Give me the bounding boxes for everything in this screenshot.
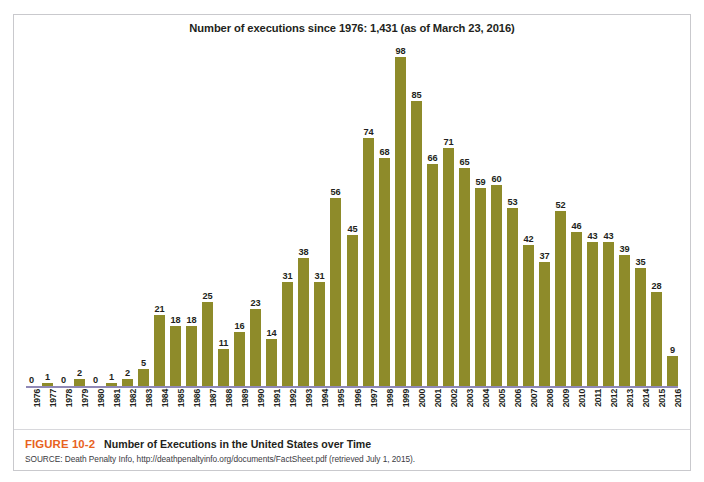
x-tick-label: 2002 [443, 389, 454, 425]
x-tick-label: 1998 [379, 389, 390, 425]
bar-value-label: 0 [61, 375, 66, 385]
bar-value-label: 28 [651, 281, 661, 291]
bar-rect [667, 356, 678, 386]
x-tick-label: 2008 [539, 389, 550, 425]
x-tick-label: 2012 [603, 389, 614, 425]
bar-column: 38 [298, 247, 309, 387]
bar-rect [427, 164, 438, 386]
bar-rect [363, 138, 374, 386]
bar-rect [314, 282, 325, 386]
x-tick-label: 2003 [459, 389, 470, 425]
bar-rect [234, 332, 245, 386]
bar-value-label: 31 [314, 271, 324, 281]
bar-value-label: 66 [427, 153, 437, 163]
bar-rect [459, 168, 470, 386]
bar-column: 65 [459, 157, 470, 387]
bar-column: 18 [186, 315, 197, 387]
bar-value-label: 43 [603, 231, 613, 241]
chart-title: Number of executions since 1976: 1,431 (… [14, 22, 690, 34]
bar-rect [170, 326, 181, 386]
bar-rect [74, 379, 85, 386]
bar-column: 21 [154, 304, 165, 387]
bar-rect [555, 211, 566, 386]
bar-column: 53 [507, 197, 518, 387]
x-tick-label: 1978 [58, 389, 69, 425]
x-tick-label: 2016 [667, 389, 678, 425]
bar-column: 0 [26, 375, 37, 387]
x-tick-label: 2013 [619, 389, 630, 425]
bar-value-label: 14 [266, 328, 276, 338]
x-tick-label: 2006 [507, 389, 518, 425]
bar-value-label: 9 [670, 345, 675, 355]
x-tick-label: 1977 [42, 389, 53, 425]
bar-value-label: 37 [539, 251, 549, 261]
bar-value-label: 46 [571, 221, 581, 231]
x-tick-label: 1989 [234, 389, 245, 425]
bar-column: 43 [587, 231, 598, 387]
x-tick-label: 2004 [475, 389, 486, 425]
x-tick-label: 1986 [186, 389, 197, 425]
chart-region: Number of executions since 1976: 1,431 (… [14, 15, 690, 429]
bar-column: 68 [379, 147, 390, 387]
bar-value-label: 25 [202, 291, 212, 301]
x-tick-label: 1995 [330, 389, 341, 425]
bar-value-label: 5 [141, 358, 146, 368]
bar-value-label: 59 [475, 177, 485, 187]
bar-column: 42 [523, 234, 534, 387]
x-tick-label: 1980 [90, 389, 101, 425]
bar-column: 85 [411, 90, 422, 387]
bar-rect [443, 148, 454, 386]
bar-column: 0 [90, 375, 101, 387]
x-tick-label: 1984 [154, 389, 165, 425]
x-tick-label: 1983 [138, 389, 149, 425]
figure-caption-block: FIGURE 10-2 Number of Executions in the … [14, 429, 690, 470]
bar-rect [619, 255, 630, 386]
bar-rect [154, 315, 165, 386]
bar-value-label: 35 [635, 257, 645, 267]
bar-rect [507, 208, 518, 386]
bar-value-label: 18 [170, 315, 180, 325]
bar-value-label: 2 [77, 368, 82, 378]
bar-column: 56 [330, 187, 341, 387]
bar-value-label: 43 [587, 231, 597, 241]
bar-rect [202, 302, 213, 386]
bar-rect [523, 245, 534, 386]
bar-column: 16 [234, 321, 245, 387]
bar-column: 0 [58, 375, 69, 387]
bar-column: 14 [266, 328, 277, 387]
x-axis-tick-labels: 1976197719781979198019811982198319841985… [26, 389, 678, 429]
x-tick-label: 1994 [314, 389, 325, 425]
bar-column: 52 [555, 200, 566, 387]
bar-value-label: 74 [363, 127, 373, 137]
bar-rect [218, 349, 229, 386]
bar-rect [411, 101, 422, 386]
bar-rect [539, 262, 550, 386]
bar-column: 11 [218, 338, 229, 387]
bar-column: 60 [491, 174, 502, 387]
bar-column: 1 [42, 372, 53, 387]
bar-rect [635, 268, 646, 386]
bar-rect [651, 292, 662, 386]
bar-value-label: 0 [93, 375, 98, 385]
bar-value-label: 31 [282, 271, 292, 281]
bar-column: 35 [635, 257, 646, 387]
page-root: Number of executions since 1976: 1,431 (… [0, 0, 704, 482]
x-tick-label: 1985 [170, 389, 181, 425]
bar-value-label: 68 [379, 147, 389, 157]
bar-column: 25 [202, 291, 213, 387]
bar-rect [266, 339, 277, 386]
figure-caption-text: Number of Executions in the United State… [104, 438, 371, 450]
bar-value-label: 1 [45, 372, 50, 382]
x-tick-label: 1988 [218, 389, 229, 425]
x-tick-label: 1981 [106, 389, 117, 425]
plot-area: 0102012521181825111623143138315645746898… [26, 45, 678, 386]
x-tick-label: 2015 [651, 389, 662, 425]
bar-column: 28 [651, 281, 662, 387]
bar-rect [587, 242, 598, 386]
bar-value-label: 1 [109, 372, 114, 382]
x-tick-label: 1992 [282, 389, 293, 425]
bar-rect [330, 198, 341, 386]
bar-column: 46 [571, 221, 582, 387]
bar-rect [571, 232, 582, 386]
x-tick-label: 1990 [250, 389, 261, 425]
